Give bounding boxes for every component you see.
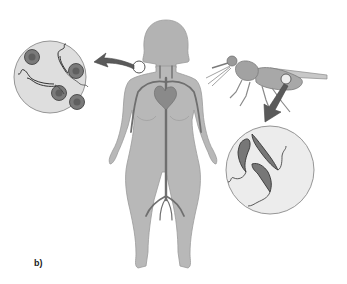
tsetse-fly bbox=[206, 56, 327, 112]
blood-inset bbox=[14, 41, 88, 113]
fly-gut-inset bbox=[226, 126, 314, 214]
blood-sample-marker bbox=[133, 61, 145, 73]
panel-label: b) bbox=[34, 258, 43, 268]
human-figure bbox=[109, 20, 217, 268]
diagram-canvas bbox=[0, 0, 347, 284]
arrow-to-blood-inset bbox=[94, 53, 134, 69]
gut-marker bbox=[281, 74, 291, 84]
